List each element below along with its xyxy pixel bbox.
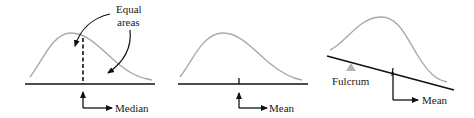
median-label: Median bbox=[115, 102, 149, 114]
fulcrum-panel: Fulcrum Mean bbox=[327, 17, 454, 106]
distribution-diagram: Equal areas Median Mean Fulcrum Mean bbox=[0, 0, 474, 118]
fulcrum-triangle-icon bbox=[346, 63, 356, 71]
areas-label: areas bbox=[117, 16, 140, 28]
mean-panel: Mean bbox=[178, 33, 308, 114]
mean-label: Mean bbox=[269, 102, 295, 114]
skewed-distribution-curve bbox=[180, 33, 302, 80]
fulcrum-label: Fulcrum bbox=[332, 75, 370, 87]
skewed-distribution-curve bbox=[30, 33, 152, 80]
mean-label: Mean bbox=[422, 94, 448, 106]
equal-label: Equal bbox=[116, 3, 142, 15]
median-panel: Equal areas Median bbox=[25, 3, 155, 114]
equal-areas-arrow-right bbox=[108, 30, 130, 73]
